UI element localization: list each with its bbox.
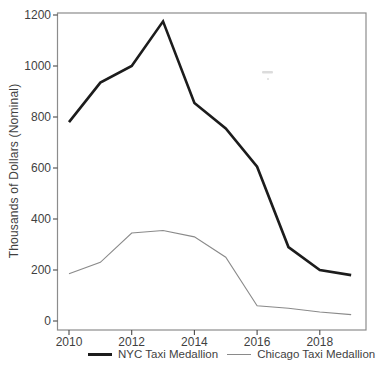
legend-item-nyc: NYC Taxi Medallion <box>88 348 218 360</box>
y-tick-label: 1000 <box>24 59 51 73</box>
x-tick-label: 2012 <box>118 335 145 349</box>
y-tick-label: 400 <box>31 212 51 226</box>
line-chart-canvas: 0200400600800100012002010201220142016201… <box>0 0 377 375</box>
smudge-artifact <box>267 78 269 80</box>
chart-figure: 0200400600800100012002010201220142016201… <box>0 0 377 375</box>
y-tick-label: 0 <box>44 314 51 328</box>
chicago-line-sample-icon <box>227 354 251 355</box>
nyc-line-sample-icon <box>88 353 112 356</box>
legend-item-chicago: Chicago Taxi Medallion <box>227 348 375 360</box>
chart-legend: NYC Taxi Medallion Chicago Taxi Medallio… <box>88 348 375 360</box>
y-tick-label: 200 <box>31 263 51 277</box>
x-tick-label: 2016 <box>244 335 271 349</box>
y-tick-label: 600 <box>31 161 51 175</box>
series-line-nyc <box>69 21 351 275</box>
x-tick-label: 2010 <box>56 335 83 349</box>
x-tick-label: 2018 <box>306 335 333 349</box>
series-line-chicago <box>69 230 351 314</box>
y-axis-title: Thousands of Dollars (Nominal) <box>7 84 21 259</box>
y-tick-label: 1200 <box>24 8 51 22</box>
plot-border <box>58 13 367 330</box>
x-tick-label: 2014 <box>181 335 208 349</box>
legend-label-nyc: NYC Taxi Medallion <box>118 348 218 360</box>
y-tick-label: 800 <box>31 110 51 124</box>
legend-label-chicago: Chicago Taxi Medallion <box>257 348 375 360</box>
smudge-artifact <box>262 71 273 74</box>
